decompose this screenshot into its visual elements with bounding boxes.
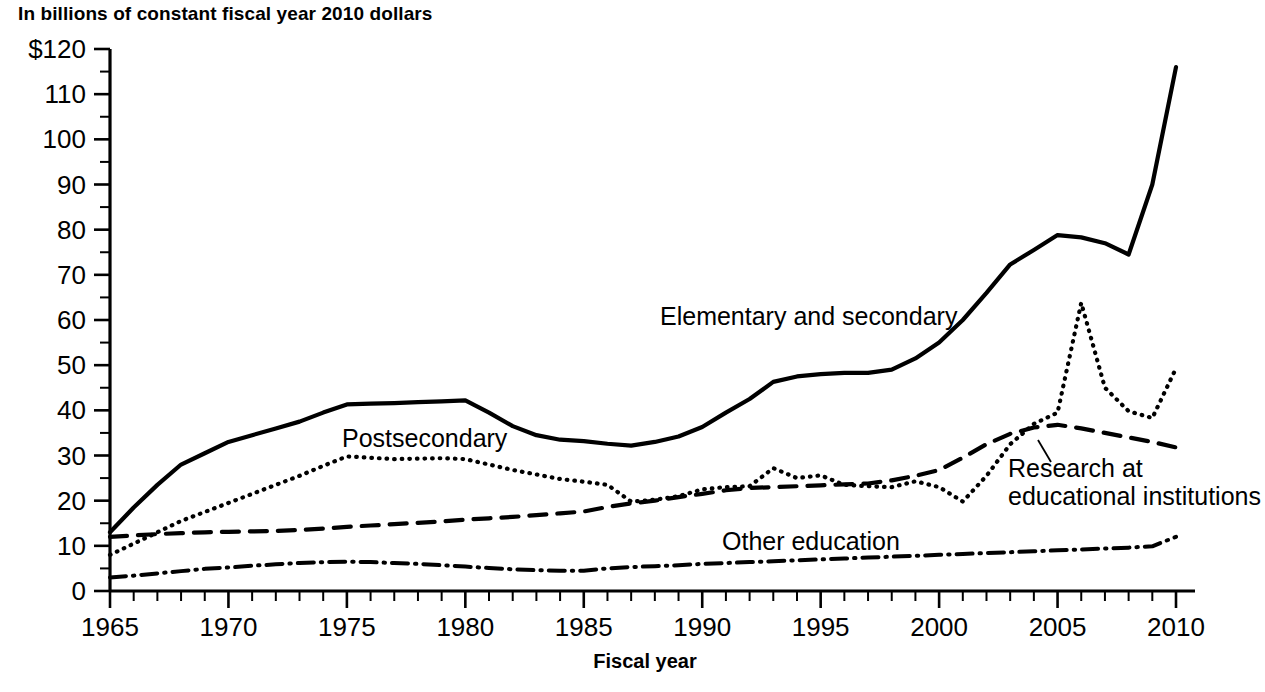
y-axis-ticks bbox=[94, 49, 110, 591]
y-tick-label: 30 bbox=[57, 441, 86, 471]
y-tick-label: 20 bbox=[57, 486, 86, 516]
chart-container: In billions of constant fiscal year 2010… bbox=[0, 0, 1265, 692]
y-tick-label: 10 bbox=[57, 531, 86, 561]
y-tick-label: 100 bbox=[43, 124, 86, 154]
x-tick-label: 1980 bbox=[436, 612, 494, 642]
y-tick-label: 40 bbox=[57, 395, 86, 425]
y-tick-label: 0 bbox=[72, 576, 86, 606]
y-tick-label: 110 bbox=[45, 79, 86, 109]
y-tick-label: 80 bbox=[57, 215, 86, 245]
y-tick-label: 50 bbox=[57, 350, 86, 380]
y-tick-label: $120 bbox=[28, 34, 86, 64]
series-line-3 bbox=[110, 537, 1176, 578]
x-tick-label: 1965 bbox=[81, 612, 139, 642]
x-tick-label: 1995 bbox=[792, 612, 850, 642]
series-label-elementary: Elementary and secondary bbox=[660, 302, 958, 330]
series-label-research-line1: Research at bbox=[1008, 454, 1143, 482]
x-tick-label: 1990 bbox=[673, 612, 731, 642]
x-tick-label: 2005 bbox=[1029, 612, 1087, 642]
line-chart-plot: $1201101009080706050403020100 1965197019… bbox=[0, 0, 1265, 692]
x-tick-label: 2010 bbox=[1147, 612, 1205, 642]
y-tick-label: 90 bbox=[57, 170, 86, 200]
x-tick-label: 1970 bbox=[200, 612, 258, 642]
x-axis-ticks bbox=[110, 591, 1176, 608]
series-label-research-line2: educational institutions bbox=[1008, 482, 1261, 510]
x-axis-tick-labels: 1965197019751980198519901995200020052010 bbox=[81, 612, 1205, 642]
series-label-postsecondary: Postsecondary bbox=[342, 424, 508, 452]
x-axis-title: Fiscal year bbox=[593, 650, 697, 672]
x-tick-label: 1985 bbox=[555, 612, 613, 642]
series-label-other-education: Other education bbox=[722, 527, 900, 555]
y-tick-label: 60 bbox=[57, 305, 86, 335]
x-tick-label: 2000 bbox=[910, 612, 968, 642]
x-tick-label: 1975 bbox=[318, 612, 376, 642]
y-tick-label: 70 bbox=[57, 260, 86, 290]
y-axis-tick-labels: $1201101009080706050403020100 bbox=[28, 34, 86, 606]
